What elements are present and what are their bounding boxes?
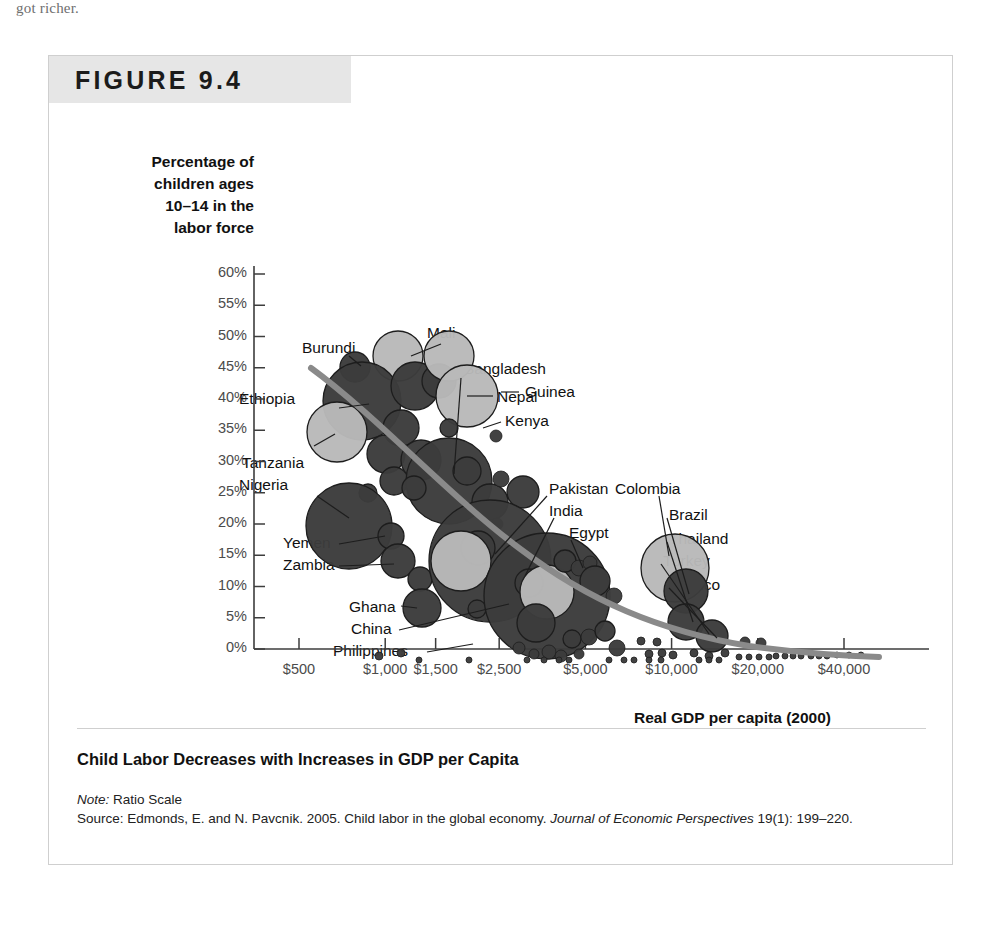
source-label: Source: xyxy=(77,811,124,826)
source-text-1: Edmonds, E. and N. Pavcnik. 2005. Child … xyxy=(127,811,550,826)
caption-note-source: Note: Ratio Scale Source: Edmonds, E. an… xyxy=(77,790,917,828)
plot-canvas xyxy=(49,56,954,736)
caption-divider xyxy=(77,728,926,729)
source-text-2: 19(1): 199–220. xyxy=(754,811,853,826)
note-label: Note: xyxy=(77,792,109,807)
figure-card: FIGURE 9.4 Percentage of children ages 1… xyxy=(48,55,953,865)
caption-title: Child Labor Decreases with Increases in … xyxy=(77,750,519,769)
source-journal: Journal of Economic Perspectives xyxy=(550,811,753,826)
note-line: Note: Ratio Scale xyxy=(77,790,917,809)
scanned-body-text: got richer. xyxy=(16,0,79,17)
note-text: Ratio Scale xyxy=(113,792,182,807)
source-line: Source: Edmonds, E. and N. Pavcnik. 2005… xyxy=(77,809,917,828)
bubble-chart: Percentage of children ages 10–14 in the… xyxy=(49,56,954,866)
